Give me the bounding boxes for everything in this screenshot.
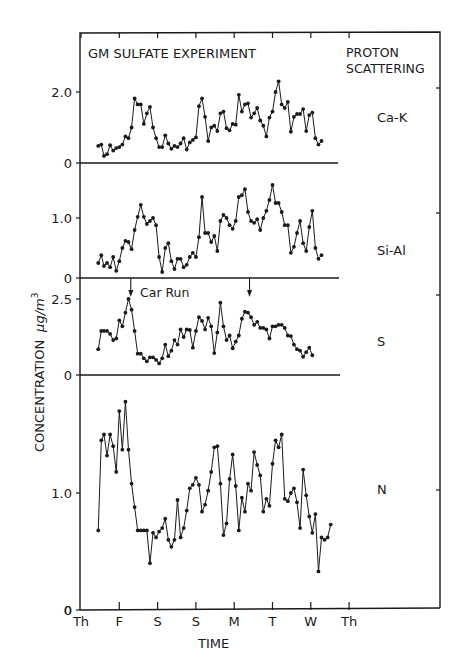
data-point — [133, 329, 137, 333]
data-point — [182, 136, 186, 140]
data-point — [313, 136, 317, 140]
data-point — [310, 111, 314, 115]
data-point — [283, 497, 287, 501]
data-point — [200, 96, 204, 100]
data-point — [231, 346, 235, 350]
data-point — [317, 569, 321, 573]
data-point — [274, 90, 278, 94]
data-point — [246, 482, 250, 486]
data-point — [127, 136, 131, 140]
data-point — [160, 356, 164, 360]
data-point — [289, 251, 293, 255]
data-point — [264, 497, 268, 501]
data-point — [237, 529, 241, 533]
data-point — [130, 482, 134, 486]
series-label: N — [377, 482, 387, 497]
data-point — [148, 561, 152, 565]
data-point — [188, 486, 192, 490]
data-point — [96, 261, 100, 265]
data-point — [169, 259, 173, 263]
data-point — [117, 259, 121, 263]
data-point — [222, 213, 226, 217]
data-point — [277, 445, 281, 449]
data-point — [261, 216, 265, 220]
data-point — [117, 409, 121, 413]
data-point — [117, 145, 121, 149]
data-point — [163, 246, 167, 250]
data-point — [209, 240, 213, 244]
x-axis: ThFSSMTWTh0 — [64, 602, 357, 629]
data-point — [222, 533, 226, 537]
data-point — [173, 267, 177, 271]
y-tick-label: 1.0 — [51, 211, 72, 226]
data-point — [240, 496, 244, 500]
data-point — [246, 101, 250, 105]
data-point — [154, 223, 158, 227]
data-point — [148, 219, 152, 223]
data-point — [127, 448, 131, 452]
data-point — [289, 130, 293, 134]
data-point — [102, 433, 106, 437]
data-point — [234, 484, 238, 488]
data-point — [271, 462, 275, 466]
data-point — [185, 263, 189, 267]
data-point — [212, 351, 216, 355]
data-point — [268, 337, 272, 341]
data-point — [258, 228, 262, 232]
data-point — [139, 352, 143, 356]
x-tick-label: F — [116, 614, 123, 629]
data-point — [130, 247, 134, 251]
data-point — [228, 477, 232, 481]
data-point — [176, 498, 180, 502]
data-point — [96, 347, 100, 351]
data-point — [151, 355, 155, 359]
data-point — [243, 187, 247, 191]
data-point — [212, 124, 216, 128]
data-point — [268, 116, 272, 120]
data-point — [114, 470, 118, 474]
y-tick-label: 2.5 — [51, 292, 72, 307]
data-point — [310, 209, 314, 213]
data-point — [124, 311, 128, 315]
data-point — [206, 316, 210, 320]
x-tick-label: M — [229, 614, 240, 629]
data-point — [166, 142, 170, 146]
data-point — [151, 216, 155, 220]
data-point — [148, 105, 152, 109]
data-point — [102, 264, 106, 268]
data-point — [194, 476, 198, 480]
data-point — [105, 329, 109, 333]
panel-s: 02.5S — [51, 292, 440, 383]
data-point — [151, 531, 155, 535]
data-point — [280, 210, 284, 214]
data-point — [176, 145, 180, 149]
data-point — [283, 326, 287, 330]
x-tick-label: S — [153, 614, 161, 629]
data-point — [169, 545, 173, 549]
data-point — [215, 129, 219, 133]
data-point — [139, 203, 143, 207]
data-point — [99, 438, 103, 442]
data-point — [203, 328, 207, 332]
data-point — [157, 530, 161, 534]
data-point — [249, 489, 253, 493]
panel-ca-k: 02.0Ca-K — [51, 79, 440, 171]
data-point — [108, 332, 112, 336]
data-point — [301, 107, 305, 111]
data-point — [163, 343, 167, 347]
panels: 02.0Ca-K01.0Si-Al02.5S01.0N — [51, 79, 440, 618]
data-point — [105, 261, 109, 265]
data-point — [173, 338, 177, 342]
data-point — [320, 139, 324, 143]
y-tick-label: 0 — [64, 368, 72, 383]
data-point — [304, 129, 308, 133]
data-point — [111, 149, 115, 153]
data-point — [145, 111, 149, 115]
data-point — [194, 255, 198, 259]
data-point — [185, 509, 189, 513]
y-tick-label: 1.0 — [51, 486, 72, 501]
data-point — [160, 145, 164, 149]
x-tick-label: T — [268, 614, 277, 629]
data-point — [255, 217, 259, 221]
data-point — [225, 216, 229, 220]
